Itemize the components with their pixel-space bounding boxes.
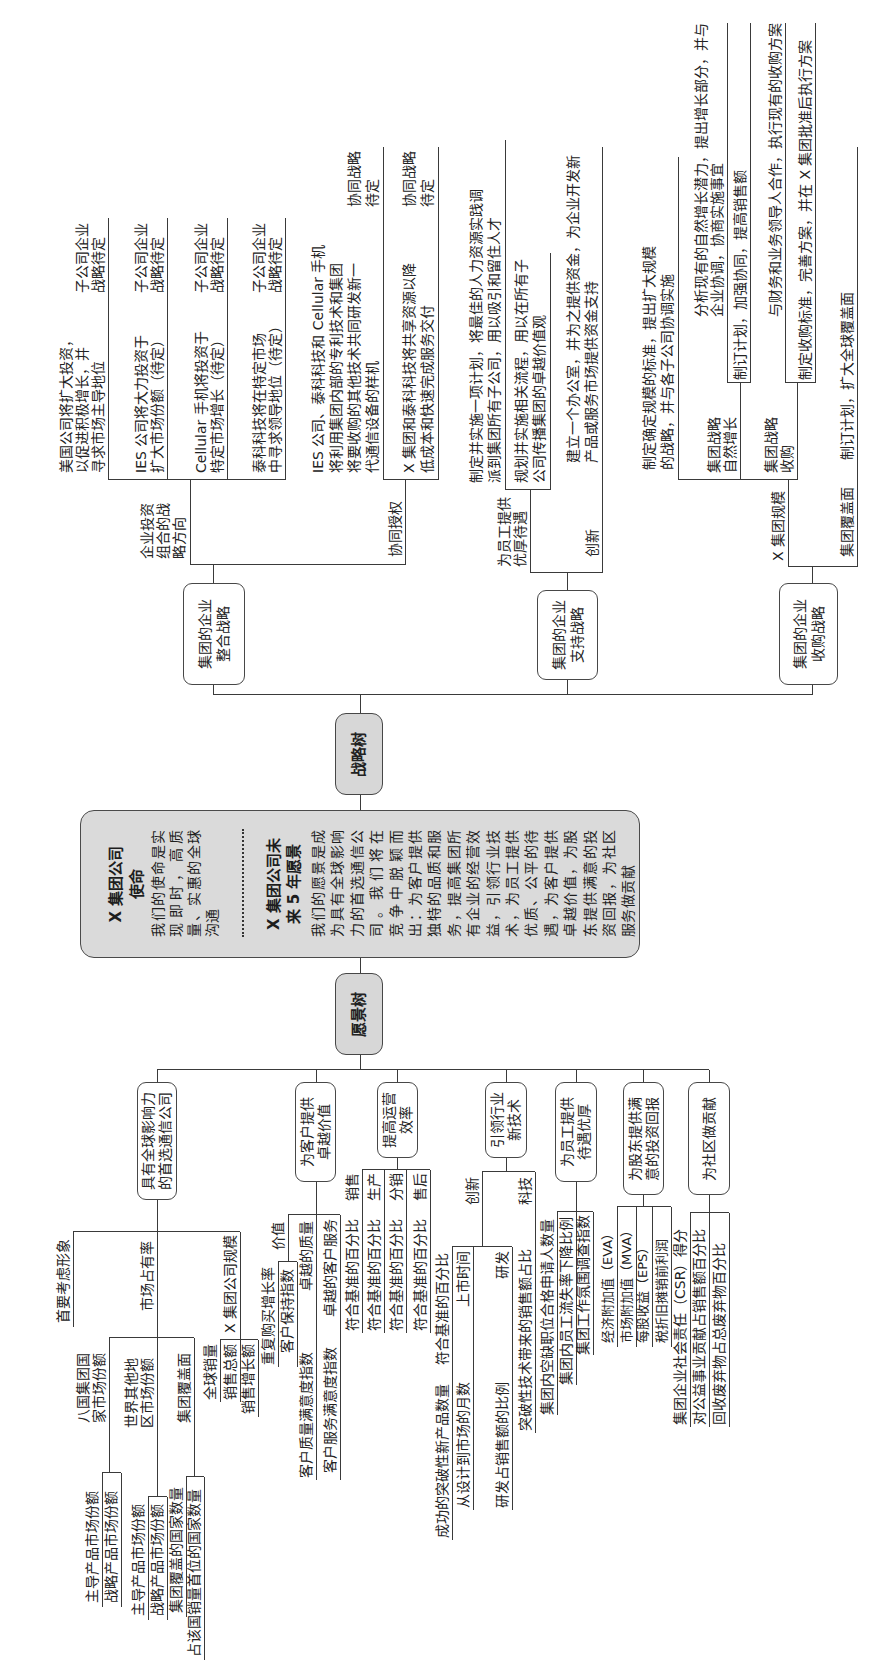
- connector-line: [383, 479, 438, 480]
- connector-line: [567, 573, 568, 590]
- synergy-item: IES 公司、泰科科技和 Cellular 手机 将利用集团内部的专利技术和集团…: [309, 245, 381, 473]
- vision-text: 术，为员工提供: [503, 829, 521, 937]
- metric-leaf: 经济附加值（EVA）: [600, 1227, 615, 1343]
- connector-line: [557, 1211, 593, 1212]
- metric-leaf: 主导产品市场份额: [84, 1491, 100, 1603]
- sub-goal-label: 首要考虑形象: [55, 1239, 71, 1323]
- scale-label: X 集团规模: [770, 491, 786, 561]
- connector-line: [815, 23, 816, 383]
- connector-line: [240, 1232, 241, 1340]
- sub-goal-label: X 集团公司规模: [222, 1235, 238, 1333]
- metric-leaf: 销售增长额: [240, 1344, 256, 1414]
- connector-line: [157, 1338, 158, 1497]
- mission-text: 量、实惠的全球: [185, 829, 203, 937]
- measure-label: 上市时间: [455, 1251, 471, 1307]
- connector-line: [797, 383, 798, 480]
- connector-line: [438, 147, 439, 480]
- metric-leaf: 战略产品市场份额: [149, 1504, 165, 1616]
- innovation-label: 创新: [584, 529, 600, 557]
- goal-global-influence-node: 具有全球影响力 的首选通信公司: [137, 1082, 177, 1200]
- synergy-item-result: 协同战略 待定: [400, 151, 436, 207]
- portfolio-direction-label: 企业投资 组合的战 略方向: [139, 503, 187, 559]
- connector-line: [227, 218, 228, 480]
- organic-growth-item: 制订计划，加强协同，提高销售额: [732, 170, 748, 380]
- connector-line: [812, 685, 813, 695]
- metric-leaf: 集团覆盖的国家数量: [168, 1487, 184, 1613]
- support-strategy-node: 集团的企业 支持战略: [537, 590, 598, 680]
- connector-line: [288, 1214, 340, 1215]
- metric-leaf: 集团内空缺职位合格申请人数量: [539, 1219, 555, 1415]
- mission-vision-box: X 集团公司 使命 我们的使命是实 现即时，高质 量、实惠的全球 沟通 X 集团…: [80, 810, 640, 958]
- vision-text: 务，提高集团所: [445, 829, 463, 937]
- sub-goal-label: 售后: [412, 1173, 428, 1201]
- connector-line: [157, 1069, 709, 1070]
- vision-text: 遇，为客户提供: [542, 829, 560, 937]
- connector-line: [643, 1070, 644, 1082]
- connector-line: [740, 383, 741, 480]
- acquire-label: 集团战略 收购: [763, 417, 795, 473]
- vision-text: 司。我们将在: [367, 829, 385, 937]
- vision-text: 独特的品质和服: [425, 829, 443, 937]
- connector-line: [602, 147, 603, 573]
- connector-line: [727, 23, 728, 383]
- metric-leaf: 集团内员工流失率下降比例: [558, 1217, 574, 1385]
- connector-line: [473, 1247, 474, 1510]
- metric-leaf: 战略产品市场份额: [103, 1491, 119, 1603]
- connector-line: [729, 1213, 730, 1427]
- goal-customer-value-node: 为客户提供 卓越价值: [295, 1082, 336, 1182]
- portfolio-item: IES 公司将大力投资于 扩大市场份额（待定）: [133, 333, 165, 473]
- vision-text: 有企业的经营效: [464, 829, 482, 937]
- connector-line: [727, 382, 750, 383]
- connector-line: [617, 1207, 618, 1347]
- portfolio-item-result: 子公司企业 战略待定: [251, 223, 283, 293]
- sub-goal-label: 卓越的质量: [298, 1221, 314, 1291]
- connector-line: [530, 572, 602, 573]
- sub-goal-label: 价值: [270, 1222, 286, 1250]
- vision-text: 益，引领行业技: [484, 829, 502, 937]
- connector-line: [213, 565, 214, 583]
- connector-line: [121, 1473, 122, 1607]
- connector-line: [316, 1070, 317, 1082]
- connector-line: [148, 1496, 167, 1497]
- connector-line: [108, 479, 285, 480]
- connector-line: [678, 157, 679, 480]
- connector-line: [430, 1170, 431, 1333]
- connector-line: [750, 23, 751, 383]
- connector-line: [397, 1070, 398, 1082]
- organic-growth-label: 集团战略 自然增长: [706, 417, 738, 473]
- connector-line: [360, 958, 361, 973]
- vision-text: 力的首选通信公: [348, 829, 366, 937]
- connector-line: [109, 1337, 194, 1338]
- connector-line: [593, 1212, 594, 1355]
- organic-growth-item: 分析现有的自然增长潜力，提出增长部分，并与 企业协调，协商实施事宜: [693, 23, 725, 317]
- vision-text: 我们的愿景是成: [309, 829, 327, 937]
- connector-line: [190, 564, 405, 565]
- connector-line: [406, 1170, 407, 1333]
- metric-leaf: 对公益事业贡献占销售额百分比: [691, 1229, 707, 1425]
- connector-line: [316, 1215, 317, 1480]
- metric-leaf: 客户保持指数: [279, 1269, 295, 1353]
- connector-line: [576, 1070, 577, 1082]
- goal-shareholder-return-node: 为股东提供满 意的投资回报: [623, 1082, 664, 1195]
- connector-line: [709, 1213, 710, 1427]
- connector-line: [405, 480, 406, 565]
- metric-leaf: 每股收益（EPS）: [635, 1241, 650, 1343]
- connector-line: [785, 382, 815, 383]
- vision-text: 出：为客户提供: [406, 829, 424, 937]
- sub-goal-label: 分销: [388, 1173, 404, 1201]
- sub-goal-label: 科技: [517, 1177, 533, 1205]
- metric-leaf: 占该国销量首位的国家数量: [186, 1489, 202, 1657]
- metric-leaf: 从设计到市场的月数: [455, 1382, 471, 1508]
- sub-goal-label: 卓越的客户服务: [322, 1219, 338, 1317]
- metric-leaf: 客户质量满意度指数: [298, 1352, 314, 1478]
- metric-leaf: 市场附加值（MVA）: [619, 1224, 634, 1343]
- scale-item: 制定确定规模的标准，提出扩大规模 的战略，并与各子公司协调实施: [640, 246, 676, 470]
- vision-title: 来 5 年愿景: [285, 811, 303, 957]
- goal-operational-efficiency-node: 提高运营 效率: [377, 1082, 418, 1158]
- connector-line: [340, 1215, 341, 1480]
- metric-leaf: 税折旧摊销前利润: [654, 1239, 669, 1343]
- connector-line: [157, 1070, 158, 1082]
- mission-text: 我们的使命是实: [149, 829, 167, 937]
- metric-leaf: 符合基准的百分比: [366, 1219, 382, 1331]
- connector-line: [109, 1338, 110, 1473]
